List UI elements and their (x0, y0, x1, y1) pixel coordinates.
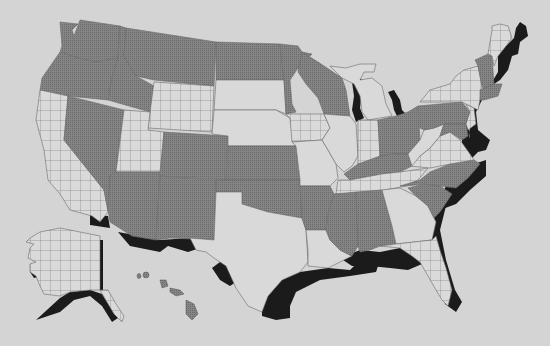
state-hi (137, 272, 198, 320)
state-sd (214, 80, 286, 114)
state-ak (26, 228, 100, 296)
state-az (108, 172, 160, 240)
state-ks (226, 146, 300, 180)
state-nd (216, 42, 284, 80)
us-map (0, 0, 550, 346)
states (26, 20, 512, 322)
state-wy (148, 82, 214, 132)
state-wi (298, 52, 350, 116)
state-co (160, 132, 228, 180)
state-nm (156, 176, 216, 240)
